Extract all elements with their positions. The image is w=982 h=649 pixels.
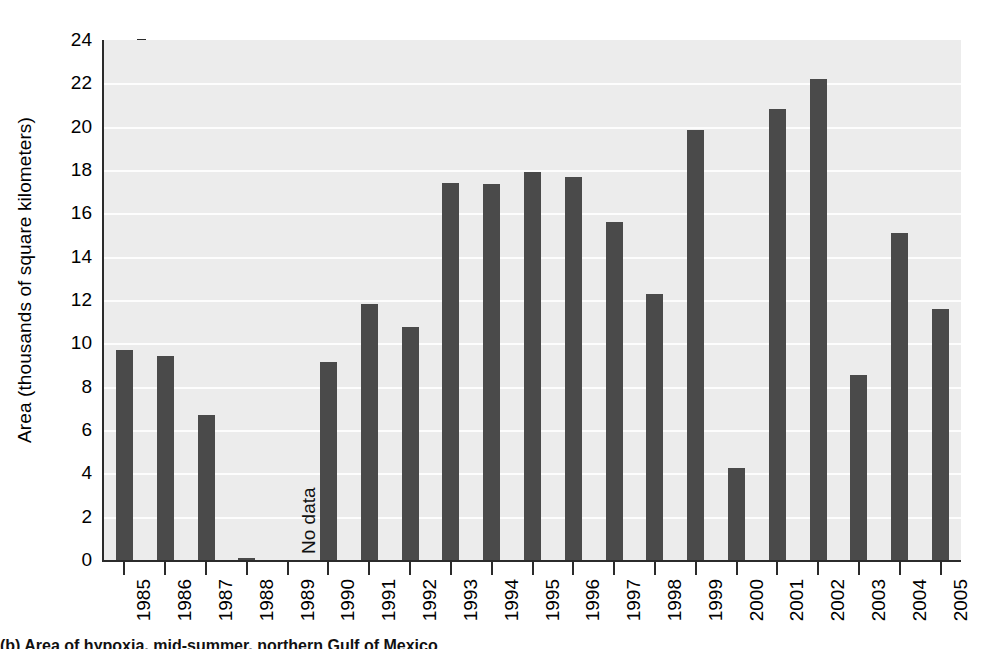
x-axis-tick-label: 1986 (174, 579, 193, 621)
x-axis-tick-label: 2000 (746, 579, 765, 621)
bar (606, 222, 623, 560)
y-axis-title: Area (thousands of square kilometers) (8, 0, 42, 560)
bar (198, 415, 215, 560)
bar (810, 79, 827, 560)
x-axis-tick-label: 1995 (542, 579, 561, 621)
x-axis-tick-label: 1987 (215, 579, 234, 621)
x-axis-tick-mark (776, 562, 778, 575)
chart-figure: Area (thousands of square kilometers) 02… (0, 0, 982, 649)
x-axis-tick-mark (940, 562, 942, 575)
y-axis-tick-label: 10 (71, 332, 92, 354)
gridline (104, 83, 961, 85)
figure-caption: (b) Area of hypoxia, mid-summer, norther… (0, 637, 982, 649)
bar (402, 327, 419, 560)
x-axis-tick-label: 2003 (868, 579, 887, 621)
x-axis-tick-label: 1988 (256, 579, 275, 621)
bar (646, 294, 663, 561)
y-axis-tick-label: 16 (71, 202, 92, 224)
x-axis-tick-label: 1999 (705, 579, 724, 621)
bar (116, 350, 133, 560)
x-axis-tick-mark (327, 562, 329, 575)
x-axis-tick-label: 2005 (950, 579, 969, 621)
y-axis-tick-label: 0 (81, 549, 92, 571)
y-axis-tick-label: 20 (71, 116, 92, 138)
x-axis-tick-mark (246, 562, 248, 575)
bar (483, 184, 500, 560)
x-axis-tick-mark (205, 562, 207, 575)
x-axis-tick-mark (858, 562, 860, 575)
x-axis-tick-label: 2004 (909, 579, 928, 621)
bar (565, 177, 582, 561)
x-axis-tick-mark (450, 562, 452, 575)
y-axis-tick-labels: 024681012141618202224 (44, 0, 92, 649)
x-axis-tick-label: 2001 (786, 579, 805, 621)
x-axis-tick-mark (368, 562, 370, 575)
y-axis-tick-label: 2 (81, 506, 92, 528)
x-axis-tick-mark (654, 562, 656, 575)
y-axis-tick-label: 24 (71, 29, 92, 51)
x-axis-tick-mark (287, 562, 289, 575)
y-axis-tick-label: 6 (81, 419, 92, 441)
y-axis-tick-label: 22 (71, 72, 92, 94)
bar (442, 183, 459, 560)
bar (157, 356, 174, 560)
bar (932, 309, 949, 560)
x-axis-tick-mark (123, 562, 125, 575)
x-axis-tick-mark (736, 562, 738, 575)
x-axis-tick-mark (613, 562, 615, 575)
x-axis-tick-mark (695, 562, 697, 575)
y-axis-tick-label: 8 (81, 376, 92, 398)
bar (769, 109, 786, 560)
x-axis-tick-label: 1994 (501, 579, 520, 621)
x-axis-tick-mark (164, 562, 166, 575)
bar (238, 558, 255, 560)
x-axis-tick-mark (409, 562, 411, 575)
bar (850, 375, 867, 560)
y-axis-tick-label: 14 (71, 246, 92, 268)
x-axis-tick-mark (817, 562, 819, 575)
x-axis-tick-mark (532, 562, 534, 575)
x-axis-tick-mark (491, 562, 493, 575)
x-axis-tick-label: 1989 (297, 579, 316, 621)
plot-area: No data (104, 40, 961, 560)
x-axis-tick-mark (899, 562, 901, 575)
bar (891, 233, 908, 560)
bar (524, 172, 541, 560)
y-axis-tick-label: 18 (71, 159, 92, 181)
bar (728, 468, 745, 560)
y-axis-tick-label: 4 (81, 462, 92, 484)
bar (320, 362, 337, 560)
x-axis-tick-label: 1998 (664, 579, 683, 621)
x-axis-tick-mark (572, 562, 574, 575)
y-axis-tick-label: 12 (71, 289, 92, 311)
x-axis-tick-label: 1992 (419, 579, 438, 621)
x-axis-tick-label: 1996 (582, 579, 601, 621)
x-axis-tick-label: 1985 (133, 579, 152, 621)
x-axis-tick-label: 1991 (378, 579, 397, 621)
x-axis-tick-label: 1990 (337, 579, 356, 621)
bar (361, 304, 378, 560)
bar (687, 130, 704, 560)
no-data-annotation: No data (298, 487, 320, 554)
gridline (104, 127, 961, 129)
x-axis-tick-label: 1993 (460, 579, 479, 621)
x-axis-tick-label: 1997 (623, 579, 642, 621)
x-axis-tick-label: 2002 (827, 579, 846, 621)
